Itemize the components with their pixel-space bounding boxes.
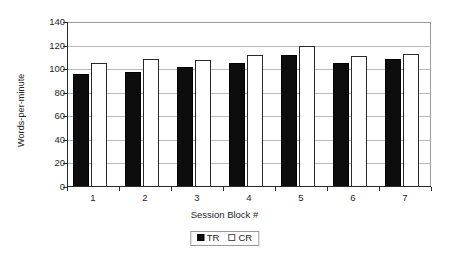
bar-group <box>223 22 275 187</box>
bar-cr-block-3 <box>195 60 211 187</box>
x-tick-label: 3 <box>177 192 217 203</box>
y-axis-title: Words-per-minute <box>14 50 28 170</box>
x-tick-label: 7 <box>385 192 425 203</box>
bar-group <box>275 22 327 187</box>
x-tick-mark <box>431 187 432 191</box>
y-tick-mark <box>63 69 67 70</box>
legend-swatch-tr-icon <box>197 234 204 241</box>
y-axis-line <box>67 22 68 187</box>
x-tick-label: 2 <box>125 192 165 203</box>
bar-group <box>171 22 223 187</box>
bar-chart-figure: Words-per-minute 020406080100120140 1234… <box>0 0 449 261</box>
bar-cr-block-2 <box>143 59 159 187</box>
y-tick-label: 120 <box>35 41 65 51</box>
legend-label-cr: CR <box>238 233 252 243</box>
x-tick-mark <box>67 187 68 191</box>
y-tick-mark <box>63 22 67 23</box>
legend-item-tr: TR <box>197 233 220 243</box>
x-tick-mark <box>171 187 172 191</box>
bar-tr-block-4 <box>229 63 245 187</box>
y-tick-mark <box>63 116 67 117</box>
y-tick-mark <box>63 93 67 94</box>
bar-group <box>119 22 171 187</box>
x-tick-label: 6 <box>333 192 373 203</box>
bar-group <box>327 22 379 187</box>
y-tick-label: 140 <box>35 17 65 27</box>
y-tick-label: 40 <box>35 135 65 145</box>
bar-cr-block-5 <box>299 46 315 187</box>
y-tick-label: 100 <box>35 64 65 74</box>
legend-swatch-cr-icon <box>228 234 235 241</box>
bar-tr-block-3 <box>177 67 193 187</box>
y-tick-mark <box>63 46 67 47</box>
x-tick-label: 5 <box>281 192 321 203</box>
bar-tr-block-5 <box>281 55 297 187</box>
bar-cr-block-1 <box>91 63 107 187</box>
x-axis-line <box>67 186 431 187</box>
y-tick-label: 60 <box>35 112 65 122</box>
x-axis-title: Session Block # <box>0 209 449 220</box>
y-tick-label: 0 <box>35 182 65 192</box>
x-tick-mark <box>327 187 328 191</box>
bar-tr-block-2 <box>125 72 141 188</box>
y-tick-mark <box>63 140 67 141</box>
plot-area <box>67 22 431 187</box>
bar-group <box>67 22 119 187</box>
bar-group <box>379 22 431 187</box>
bar-cr-block-7 <box>403 54 419 187</box>
bar-tr-block-6 <box>333 63 349 187</box>
x-tick-label: 4 <box>229 192 269 203</box>
x-tick-mark <box>275 187 276 191</box>
bar-cr-block-6 <box>351 56 367 187</box>
y-tick-label: 20 <box>35 159 65 169</box>
x-tick-label: 1 <box>73 192 113 203</box>
bar-tr-block-1 <box>73 74 89 187</box>
bar-cr-block-4 <box>247 55 263 187</box>
x-tick-mark <box>379 187 380 191</box>
legend-item-cr: CR <box>228 233 252 243</box>
legend-label-tr: TR <box>207 233 220 243</box>
y-tick-mark <box>63 163 67 164</box>
x-tick-mark <box>223 187 224 191</box>
x-tick-mark <box>119 187 120 191</box>
y-tick-label: 80 <box>35 88 65 98</box>
chart-legend: TR CR <box>190 231 259 246</box>
bar-tr-block-7 <box>385 59 401 187</box>
